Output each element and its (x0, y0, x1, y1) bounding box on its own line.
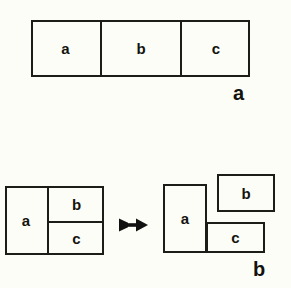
panel-a-caption: a (233, 83, 244, 103)
panel-a-cell-c-label: c (182, 20, 250, 77)
panel-b-before-cell-a-label: a (5, 186, 47, 255)
panel-b-after-cell-c-label: c (206, 222, 265, 253)
panel-a-cell-b-label: b (102, 20, 180, 77)
panel-b-after-cell-a-label: a (163, 184, 207, 253)
panel-b-after-cell-b-label: b (217, 174, 275, 212)
panel-b-before-cell-b-label: b (49, 186, 104, 222)
panel-b-before-cell-c-label: c (49, 222, 104, 255)
transform-arrow-icon (119, 215, 149, 235)
panel-b-caption: b (253, 259, 265, 279)
panel-a-cell-a-label: a (31, 20, 100, 77)
figure-canvas: a b c a a b c a (0, 0, 291, 288)
